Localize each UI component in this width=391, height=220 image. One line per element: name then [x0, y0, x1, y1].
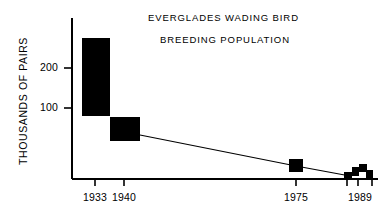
chart-plot-area: [0, 0, 391, 220]
x-tick-label-1975: 1975: [273, 191, 319, 203]
x-tick-label-1989: 1989: [337, 191, 383, 203]
y-tick-label-100: 100: [18, 101, 58, 113]
range-bar-1989-c: [359, 164, 367, 172]
range-bar-1989-d: [366, 170, 373, 178]
range-bar-1940: [110, 117, 140, 141]
chart-title-line-2: BREEDING POPULATION: [160, 34, 290, 45]
x-tick-label-1940: 1940: [101, 191, 147, 203]
range-bar-1989-a: [344, 172, 352, 178]
y-tick-label-200: 200: [18, 61, 58, 73]
range-bar-1933: [82, 38, 110, 116]
chart-figure: THOUSANDS OF PAIRS 200 100 1933 1940 197…: [0, 0, 391, 220]
range-bar-1975: [289, 159, 303, 172]
trend-line: [140, 135, 350, 176]
range-bar-1989-b: [352, 167, 359, 176]
chart-title-line-1: EVERGLADES WADING BIRD: [148, 12, 299, 23]
